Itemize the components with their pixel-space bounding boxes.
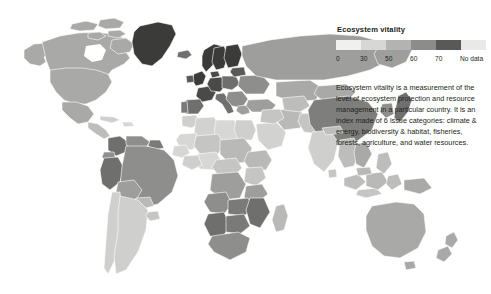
country-hispaniola (122, 122, 134, 127)
country-sri-lanka (328, 169, 337, 178)
legend-swatch-4 (436, 40, 461, 50)
legend-swatch-2 (386, 40, 411, 50)
legend-swatch-no-data (461, 40, 486, 50)
map-figure: Ecosystem vitality 0 30 50 60 70 No data… (0, 0, 491, 294)
country-mali-niger (194, 134, 224, 154)
country-tasmania (404, 261, 416, 270)
legend-tick-50: 50 (385, 53, 392, 65)
legend: Ecosystem vitality 0 30 50 60 70 No data (336, 26, 488, 65)
legend-tick-70: 70 (435, 53, 442, 65)
legend-tick-30: 30 (360, 53, 367, 65)
country-egypt (234, 120, 256, 140)
description-block: Ecosystem vitality is a measurement of t… (336, 82, 488, 149)
country-portugal (181, 101, 188, 113)
description-text: Ecosystem vitality is a measurement of t… (336, 82, 488, 149)
legend-swatch-1 (361, 40, 386, 50)
legend-tick-labels: 0 30 50 60 70 No data (336, 53, 488, 65)
legend-title: Ecosystem vitality (337, 26, 488, 34)
legend-tick-0: 0 (336, 53, 340, 65)
legend-color-ramp (336, 40, 486, 50)
legend-swatch-0 (336, 40, 361, 50)
legend-tick-60: 60 (410, 53, 417, 65)
country-ireland (186, 75, 194, 83)
legend-tick-no-data: No data (460, 53, 483, 65)
legend-swatch-3 (411, 40, 436, 50)
